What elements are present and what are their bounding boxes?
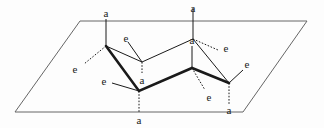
diagram-canvas <box>0 0 324 128</box>
equatorial-label-e6: e <box>124 33 129 44</box>
bond-e4-equatorial <box>229 70 243 83</box>
equatorial-label-e2: e <box>102 76 107 87</box>
axial-label-a3: a <box>190 35 195 46</box>
equatorial-label-e1: e <box>73 64 78 75</box>
axial-label-a4: a <box>227 105 232 116</box>
axial-label-a6: a <box>140 75 145 86</box>
axial-label-a5: a <box>191 3 196 14</box>
axial-label-a1: a <box>104 8 109 19</box>
axial-label-a2: a <box>137 115 142 126</box>
chair-conformation-figure: aeaeaeaeaeae <box>0 0 324 128</box>
bond-e1-equatorial <box>84 46 106 64</box>
equatorial-label-e5: e <box>224 43 229 54</box>
bond-e5-equatorial <box>193 39 218 50</box>
reference-plane <box>15 21 307 112</box>
equatorial-label-e3: e <box>207 92 212 103</box>
equatorial-label-e4: e <box>245 59 250 70</box>
ring-front-bonds <box>106 46 229 91</box>
